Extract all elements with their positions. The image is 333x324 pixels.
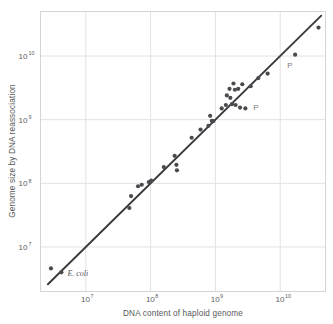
annotation-label: P [253, 103, 258, 112]
data-point [225, 93, 229, 97]
data-point [198, 127, 202, 131]
data-point [174, 163, 178, 167]
x-tick-label-base: 10 [276, 295, 285, 304]
x-tick-label-base: 10 [211, 295, 220, 304]
data-point [59, 270, 63, 274]
y-tick-label-base: 10 [19, 179, 28, 188]
x-tick-label-base: 10 [146, 295, 155, 304]
data-point [49, 266, 53, 270]
data-point [231, 81, 235, 85]
data-point [224, 103, 228, 107]
plot-canvas: E. coliPP 1071081091010 1071081091010 DN… [0, 0, 333, 324]
scatter-plot-figure: E. coliPP 1071081091010 1071081091010 DN… [0, 0, 333, 324]
data-point [127, 206, 131, 210]
data-point [240, 82, 244, 86]
data-point [136, 184, 140, 188]
y-tick-label-exponent: 7 [29, 241, 32, 247]
x-tick-label-exponent: 7 [90, 293, 93, 299]
data-point [190, 136, 194, 140]
data-point [227, 87, 231, 91]
data-point [173, 154, 177, 158]
data-point [175, 168, 179, 172]
data-point [249, 84, 253, 88]
data-point [220, 106, 224, 110]
data-point [316, 25, 320, 29]
data-point [234, 103, 238, 107]
x-tick-label-exponent: 9 [220, 293, 223, 299]
data-point [129, 194, 133, 198]
annotation-label: E. coli [66, 269, 88, 278]
data-point [243, 106, 247, 110]
data-point [238, 105, 242, 109]
y-tick-label-exponent: 8 [29, 178, 32, 184]
data-point [211, 119, 215, 123]
y-tick-label-base: 10 [19, 116, 28, 125]
y-tick-label-base: 10 [19, 243, 28, 252]
figure-background [0, 0, 333, 324]
x-axis-title: DNA content of haploid genome [123, 309, 243, 318]
y-tick-label-base: 10 [19, 52, 28, 61]
data-point [149, 179, 153, 183]
data-point [293, 53, 297, 57]
y-axis-title: Genome size by DNA reassociation [8, 84, 17, 218]
data-point [140, 183, 144, 187]
data-point [162, 165, 166, 169]
data-point [228, 96, 232, 100]
data-point [208, 114, 212, 118]
x-tick-label-exponent: 10 [285, 293, 291, 299]
data-point [230, 102, 234, 106]
x-tick-label-exponent: 8 [155, 293, 158, 299]
annotation-label: P [287, 61, 292, 70]
y-tick-label-exponent: 9 [29, 114, 32, 120]
y-tick-label-exponent: 10 [29, 50, 35, 56]
data-point [206, 124, 210, 128]
data-point [236, 87, 240, 91]
x-tick-label-base: 10 [81, 295, 90, 304]
data-point [256, 76, 260, 80]
data-point [266, 71, 270, 75]
